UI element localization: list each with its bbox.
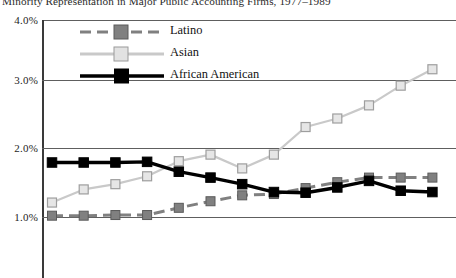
data-point-marker xyxy=(428,187,438,197)
data-point-marker xyxy=(396,186,406,196)
data-point-marker xyxy=(174,203,183,212)
data-point-marker xyxy=(142,157,152,167)
data-point-marker xyxy=(174,157,183,166)
data-point-marker xyxy=(333,114,342,123)
data-point-marker xyxy=(365,101,374,110)
data-point-marker xyxy=(47,158,57,168)
legend-swatch-asian xyxy=(78,44,166,64)
legend-label-latino: Latino xyxy=(170,23,202,38)
chart-legend: Latino Asian African American xyxy=(78,22,288,88)
data-point-marker xyxy=(48,198,57,207)
legend-item-african-american: African American xyxy=(78,66,288,88)
legend-item-latino: Latino xyxy=(78,22,288,44)
data-point-marker xyxy=(206,197,215,206)
data-point-marker xyxy=(111,211,120,220)
data-point-marker xyxy=(396,173,405,182)
data-point-marker xyxy=(428,65,437,74)
data-point-marker xyxy=(143,211,152,220)
data-point-marker xyxy=(48,211,57,220)
data-point-marker xyxy=(111,180,120,189)
data-point-marker xyxy=(206,173,216,183)
data-point-marker xyxy=(237,179,247,189)
data-point-marker xyxy=(301,123,310,132)
data-point-marker xyxy=(269,150,278,159)
data-point-marker xyxy=(238,164,247,173)
data-point-marker xyxy=(206,150,215,159)
legend-label-asian: Asian xyxy=(170,45,199,60)
data-point-marker xyxy=(269,187,279,197)
legend-label-african-american: African American xyxy=(170,67,259,82)
legend-swatch-african-american xyxy=(78,66,166,86)
data-point-marker xyxy=(428,173,437,182)
data-point-marker xyxy=(174,167,184,177)
data-point-marker xyxy=(111,158,121,168)
data-point-marker xyxy=(364,176,374,186)
data-point-marker xyxy=(333,183,343,193)
data-point-marker xyxy=(79,185,88,194)
chart-figure: Minority Representation in Major Public … xyxy=(0,0,456,278)
data-point-marker xyxy=(238,191,247,200)
data-point-marker xyxy=(143,172,152,181)
data-point-marker xyxy=(396,81,405,90)
data-point-marker xyxy=(79,158,89,168)
data-point-marker xyxy=(301,188,311,198)
data-point-marker xyxy=(79,211,88,220)
legend-swatch-latino xyxy=(78,22,166,42)
legend-item-asian: Asian xyxy=(78,44,288,66)
